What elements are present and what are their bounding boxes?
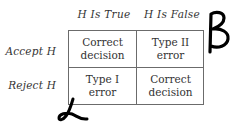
column-header-h-false: H Is False bbox=[139, 8, 205, 20]
cell-text-line2: error bbox=[157, 49, 185, 62]
cell-text-line1: Type II bbox=[152, 36, 190, 49]
decision-matrix: Correct decision Type II error Type I er… bbox=[68, 30, 204, 105]
column-header-h-true: H Is True bbox=[71, 8, 137, 20]
cell-text-line2: error bbox=[89, 86, 117, 99]
handwritten-beta-icon bbox=[204, 8, 234, 56]
row-header-reject: Reject H bbox=[0, 79, 56, 91]
row-header-accept: Accept H bbox=[0, 45, 56, 57]
handwritten-alpha-icon bbox=[56, 96, 92, 126]
cell-text-line2: decision bbox=[80, 49, 124, 62]
cell-accept-true: Correct decision bbox=[69, 31, 136, 67]
cell-text-line1: Correct bbox=[150, 73, 191, 86]
cell-accept-false: Type II error bbox=[137, 31, 204, 67]
cell-reject-false: Correct decision bbox=[137, 68, 204, 104]
cell-text-line2: decision bbox=[148, 86, 192, 99]
cell-text-line1: Type I bbox=[86, 73, 119, 86]
cell-text-line1: Correct bbox=[82, 36, 123, 49]
